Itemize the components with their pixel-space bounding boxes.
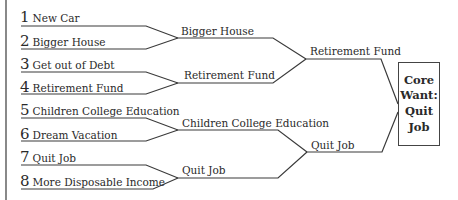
round2-label-3: Children College Education [182,118,329,129]
round2-label-2: Retirement Fund [184,70,275,81]
entry-4: 4Retirement Fund [20,80,124,95]
core-want-line-3: Quit [405,104,433,120]
entry-1: 1New Car [20,10,80,25]
bracket-line-r2-1 [178,38,306,59]
core-want-line-2: Want: [400,88,437,104]
round3-label-2: Quit Job [311,140,355,151]
bracket-line-r2-3 [178,130,307,152]
entry-8: 8More Disposable Income [20,174,165,189]
core-want-line-4: Job [408,120,429,136]
core-want-box: Core Want: Quit Job [398,62,440,146]
round2-label-4: Quit Job [182,165,226,176]
entry-6: 6Dream Vacation [20,127,117,142]
round3-label-1: Retirement Fund [310,46,401,57]
entry-2: 2Bigger House [20,34,105,49]
bracket-diagram: 1New Car 2Bigger House 3Get out of Debt … [0,0,458,200]
round2-label-1: Bigger House [181,26,254,37]
entry-3: 3Get out of Debt [20,57,114,72]
entry-7: 7Quit Job [20,150,76,165]
bracket-line-r3-1 [306,59,398,104]
entry-5: 5Children College Education [20,103,180,118]
core-want-line-1: Core [404,73,434,89]
